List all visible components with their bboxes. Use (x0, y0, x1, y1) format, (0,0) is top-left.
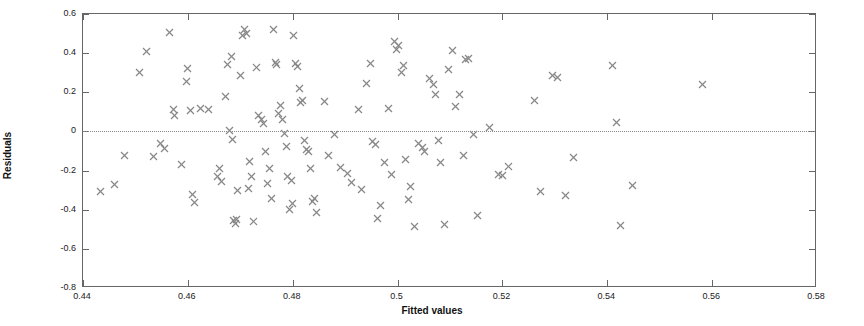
data-point-marker (366, 59, 375, 68)
data-point-marker (244, 184, 253, 193)
data-point-marker (357, 185, 366, 194)
data-point-marker (265, 164, 274, 173)
data-point-marker (227, 52, 236, 61)
data-point-marker (320, 97, 329, 106)
data-point-marker (371, 140, 380, 149)
data-point-marker (608, 61, 617, 70)
data-point-marker (504, 162, 513, 171)
data-point-marker (293, 62, 302, 71)
data-point-marker (436, 158, 445, 167)
data-point-marker (399, 61, 408, 70)
data-point-marker (404, 195, 413, 204)
data-point-marker (394, 41, 403, 50)
data-point-marker (384, 104, 393, 113)
data-point-marker (459, 151, 468, 160)
data-point-marker (330, 130, 339, 139)
data-point-marker (451, 102, 460, 111)
data-point-marker (485, 123, 494, 132)
data-point-marker (288, 199, 297, 208)
data-point-marker (245, 157, 254, 166)
data-point-marker (434, 136, 443, 145)
data-point-marker (376, 201, 385, 210)
y-tick-label: -0.8 (60, 282, 76, 292)
data-point-marker (401, 155, 410, 164)
data-point-marker (236, 71, 245, 80)
data-point-marker (259, 119, 268, 128)
data-point-marker (429, 80, 438, 89)
data-point-marker (628, 181, 637, 190)
data-point-marker (142, 47, 151, 56)
x-axis-title: Fitted values (0, 305, 864, 316)
data-point-marker (448, 46, 457, 55)
data-point-marker (287, 176, 296, 185)
data-point-marker (343, 169, 352, 178)
data-point-marker (362, 79, 371, 88)
data-point-marker (380, 158, 389, 167)
data-point-marker (280, 129, 289, 138)
data-point-marker (300, 136, 309, 145)
data-point-marker (440, 220, 449, 229)
y-tick-label: -0.6 (60, 243, 76, 253)
data-point-marker (247, 172, 256, 181)
y-tick-label: 0.6 (63, 8, 76, 18)
data-point-marker (410, 222, 419, 231)
data-point-marker (249, 217, 258, 226)
data-point-marker (120, 151, 129, 160)
data-point-marker (444, 65, 453, 74)
plot-area (82, 13, 816, 287)
data-point-marker (324, 151, 333, 160)
data-point-marker (188, 190, 197, 199)
data-point-marker (569, 153, 578, 162)
data-point-marker (186, 106, 195, 115)
x-tick-label: 0.52 (493, 291, 511, 301)
data-point-marker (612, 118, 621, 127)
data-point-marker (233, 186, 242, 195)
data-point-marker (177, 160, 186, 169)
data-point-marker (306, 164, 315, 173)
data-point-marker (310, 194, 319, 203)
data-point-marker (160, 144, 169, 153)
data-point-marker (267, 194, 276, 203)
data-points-layer (83, 14, 815, 286)
data-point-marker (278, 115, 287, 124)
data-point-marker (498, 171, 507, 180)
data-point-marker (553, 73, 562, 82)
data-point-marker (232, 215, 241, 224)
data-point-marker (96, 187, 105, 196)
data-point-marker (182, 77, 191, 86)
data-point-marker (276, 101, 285, 110)
data-point-marker (295, 84, 304, 93)
data-point-marker (183, 64, 192, 73)
y-tick-label: -0.2 (60, 165, 76, 175)
data-point-marker (217, 177, 226, 186)
data-point-marker (304, 147, 313, 156)
data-point-marker (616, 221, 625, 230)
data-point-marker (135, 68, 144, 77)
x-tick-label: 0.48 (283, 291, 301, 301)
x-tick-label: 0.5 (390, 291, 403, 301)
data-point-marker (242, 29, 251, 38)
data-point-marker (698, 80, 707, 89)
data-point-marker (420, 147, 429, 156)
data-point-marker (298, 96, 307, 105)
data-point-marker (272, 60, 281, 69)
y-tick-label: 0.2 (63, 86, 76, 96)
data-point-marker (464, 54, 473, 63)
data-point-marker (530, 96, 539, 105)
data-point-marker (204, 105, 213, 114)
data-point-marker (347, 178, 356, 187)
data-point-marker (170, 111, 179, 120)
data-point-marker (473, 211, 482, 220)
data-point-marker (225, 126, 234, 135)
data-point-marker (536, 187, 545, 196)
data-point-marker (252, 63, 261, 72)
y-axis-title: Residuals (2, 132, 13, 179)
data-point-marker (221, 92, 230, 101)
y-tick-label: 0 (71, 125, 76, 135)
data-point-marker (165, 28, 174, 37)
x-tick-label: 0.58 (807, 291, 825, 301)
y-tick-label: 0.4 (63, 47, 76, 57)
data-point-marker (387, 170, 396, 179)
data-point-marker (282, 142, 291, 151)
data-point-marker (312, 208, 321, 217)
